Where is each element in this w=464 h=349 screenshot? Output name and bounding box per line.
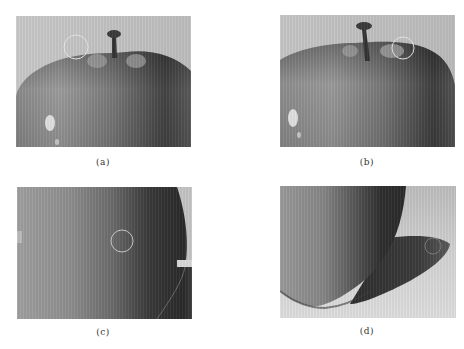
- figure-panel-b: [280, 15, 455, 147]
- caption-b: (b): [347, 157, 387, 167]
- apple-side-closeup-photo-c: [17, 187, 192, 319]
- figure-panel-a: [16, 16, 191, 147]
- apple-top-photo-a: [16, 16, 191, 147]
- apple-bottom-shadow-photo-d: [280, 186, 456, 318]
- caption-a: (a): [83, 157, 123, 167]
- figure-panel-d: [280, 186, 456, 318]
- caption-d: (d): [347, 326, 387, 336]
- apple-top-photo-b: [280, 15, 455, 147]
- caption-c: (c): [83, 327, 123, 337]
- figure-panel-c: [17, 187, 192, 319]
